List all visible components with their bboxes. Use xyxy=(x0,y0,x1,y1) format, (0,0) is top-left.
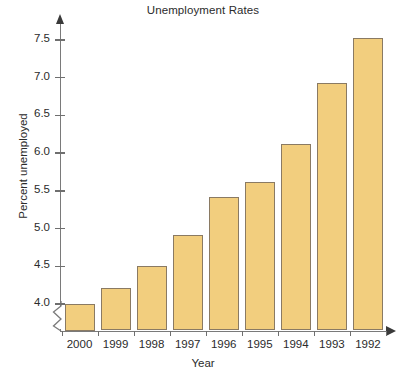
y-tick-5.0 xyxy=(55,228,65,229)
y-tick-label-6.5: 6.5 xyxy=(8,107,50,119)
bar-1992 xyxy=(353,38,383,331)
bar-1993 xyxy=(317,83,347,331)
x-axis-arrow-icon xyxy=(386,326,396,336)
x-tick-1993 xyxy=(350,331,351,336)
x-tick-1996 xyxy=(242,331,243,336)
x-tick-label-1994: 1994 xyxy=(278,338,314,350)
x-tick-label-2000: 2000 xyxy=(62,338,98,350)
bar-1999 xyxy=(101,288,131,330)
y-axis-arrow-icon xyxy=(56,14,64,24)
x-tick-label-1999: 1999 xyxy=(98,338,134,350)
y-tick-6.5 xyxy=(55,115,65,116)
y-tick-7.0 xyxy=(55,77,65,78)
x-tick-1998 xyxy=(170,331,171,336)
y-tick-label-7.5: 7.5 xyxy=(8,32,50,44)
bar-2000 xyxy=(65,304,95,331)
plot-area: 4.04.55.05.56.06.57.07.5 200019991998199… xyxy=(0,0,406,381)
x-tick-origin xyxy=(62,331,63,336)
x-tick-label-1993: 1993 xyxy=(314,338,350,350)
y-axis-line xyxy=(60,22,61,306)
bar-1994 xyxy=(281,144,311,330)
x-tick-label-1996: 1996 xyxy=(206,338,242,350)
y-tick-7.5 xyxy=(55,39,65,40)
x-tick-label-1998: 1998 xyxy=(134,338,170,350)
bar-1996 xyxy=(209,197,239,331)
x-tick-label-1995: 1995 xyxy=(242,338,278,350)
y-tick-label-4.5: 4.5 xyxy=(8,258,50,270)
x-tick-label-1997: 1997 xyxy=(170,338,206,350)
x-tick-1992 xyxy=(386,331,387,336)
y-axis-break-icon xyxy=(48,300,66,334)
x-tick-1999 xyxy=(134,331,135,336)
x-tick-1994 xyxy=(314,331,315,336)
y-tick-6.0 xyxy=(55,152,65,153)
x-tick-label-1992: 1992 xyxy=(350,338,386,350)
x-tick-1997 xyxy=(206,331,207,336)
bar-1998 xyxy=(137,266,167,331)
y-tick-5.5 xyxy=(55,190,65,191)
y-tick-label-5.0: 5.0 xyxy=(8,221,50,233)
y-tick-4.5 xyxy=(55,266,65,267)
unemployment-rates-bar-chart: Unemployment Rates Percent unemployed Ye… xyxy=(0,0,406,381)
y-tick-label-5.5: 5.5 xyxy=(8,183,50,195)
y-tick-label-6.0: 6.0 xyxy=(8,145,50,157)
x-tick-1995 xyxy=(278,331,279,336)
y-tick-label-7.0: 7.0 xyxy=(8,70,50,82)
bar-1995 xyxy=(245,182,275,331)
x-tick-2000 xyxy=(98,331,99,336)
bar-1997 xyxy=(173,235,203,331)
y-tick-4.0 xyxy=(55,303,65,304)
y-tick-label-4.0: 4.0 xyxy=(8,296,50,308)
x-axis-line xyxy=(60,331,387,332)
